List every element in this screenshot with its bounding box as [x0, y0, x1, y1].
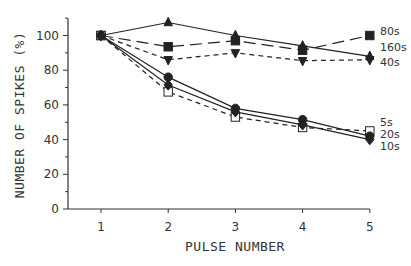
x-tick-label: 2: [164, 220, 172, 234]
triangle-down-marker-icon: [164, 57, 172, 65]
legend-label-160s: 160s: [380, 41, 407, 54]
series-10s: [97, 30, 374, 145]
square-marker-icon: [164, 43, 172, 51]
series-5s: [97, 31, 374, 135]
y-tick-label: 100: [36, 29, 59, 43]
legend: 80s160s40s5s20s10s: [380, 25, 407, 153]
square-marker-icon: [366, 31, 374, 39]
legend-label-80s: 80s: [380, 25, 400, 38]
x-tick-label: 1: [97, 220, 105, 234]
y-tick-label: 20: [44, 167, 59, 181]
triangle-down-marker-icon: [231, 50, 239, 58]
line-chart: 02040608010012345 80s160s40s5s20s10s PUL…: [0, 0, 411, 266]
y-tick-label: 80: [44, 63, 59, 77]
y-tick-label: 60: [44, 98, 59, 112]
x-tick-label: 4: [299, 220, 307, 234]
series-20s: [97, 31, 374, 140]
y-tick-label: 40: [44, 133, 59, 147]
triangle-down-marker-icon: [366, 57, 374, 65]
y-tick-label: 0: [51, 202, 59, 216]
axes: 02040608010012345: [36, 18, 374, 234]
triangle-up-marker-icon: [164, 17, 172, 25]
triangle-down-marker-icon: [298, 57, 306, 65]
legend-label-10s: 10s: [380, 140, 400, 153]
x-tick-label: 5: [366, 220, 374, 234]
legend-label-40s: 40s: [380, 56, 400, 69]
x-axis-title: PULSE NUMBER: [185, 239, 285, 254]
data-series: [97, 17, 374, 145]
x-tick-label: 3: [232, 220, 240, 234]
y-axis-title: NUMBER OF SPIKES (%): [12, 32, 27, 199]
